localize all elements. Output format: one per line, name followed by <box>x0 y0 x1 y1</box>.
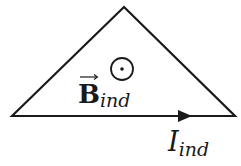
current-label: Iind <box>167 126 209 160</box>
induced-current-diagram: Bind Iind <box>0 0 241 166</box>
out-of-page-icon <box>111 58 133 80</box>
field-label: Bind <box>78 79 130 111</box>
current-arrow-icon <box>178 110 192 122</box>
